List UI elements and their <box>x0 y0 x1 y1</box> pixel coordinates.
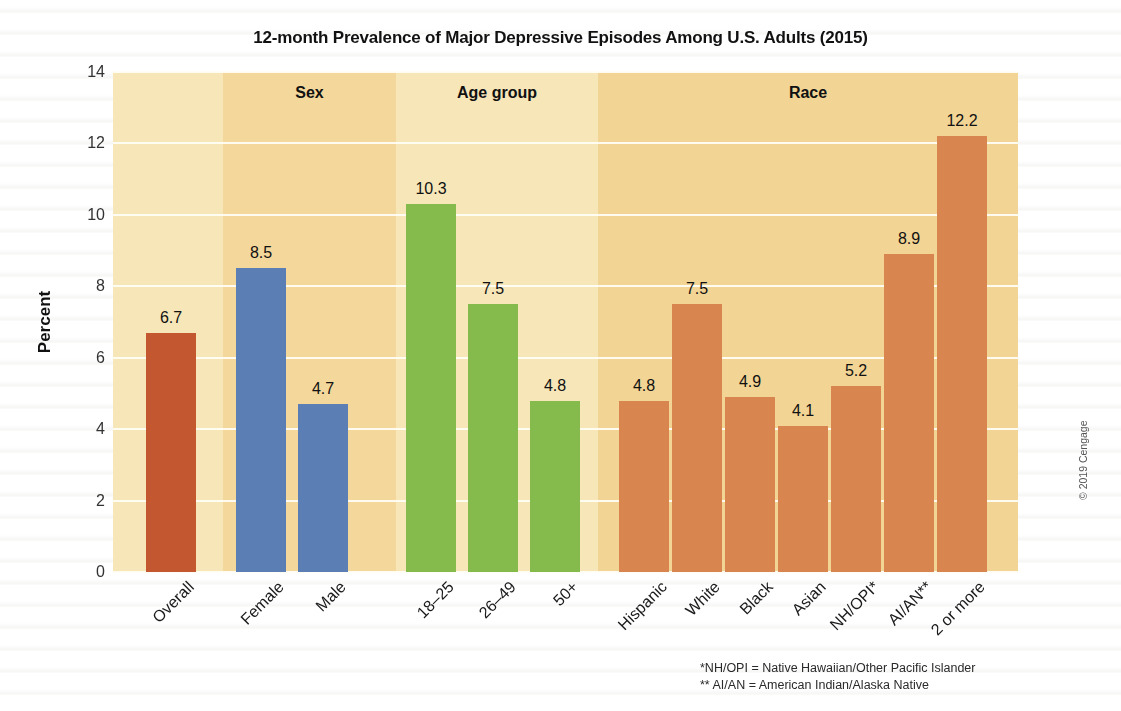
bar-white <box>672 304 722 572</box>
bar-value-label: 7.5 <box>453 280 533 298</box>
bar-female <box>236 268 286 572</box>
x-tick-label: NH/OPI* <box>827 578 883 634</box>
bar-18-25 <box>406 204 456 572</box>
gridline-10 <box>113 214 1018 216</box>
bar-26-49 <box>468 304 518 572</box>
gridline-14 <box>113 71 1018 73</box>
group-label-race: Race <box>598 84 1018 102</box>
bar-black <box>725 397 775 572</box>
chart-title: 12-month Prevalence of Major Depressive … <box>0 28 1121 48</box>
y-tick-4: 4 <box>65 420 105 438</box>
bar-ai-an <box>884 254 934 572</box>
y-axis-ticks: 02468101214 <box>63 72 105 572</box>
y-tick-2: 2 <box>65 492 105 510</box>
bar-overall <box>146 333 196 572</box>
y-tick-12: 12 <box>65 134 105 152</box>
y-axis-title: Percent <box>35 291 55 353</box>
bar-male <box>298 404 348 572</box>
x-tick-label: AI/AN** <box>885 578 936 629</box>
bar-nh-opi <box>831 386 881 572</box>
group-label-sex: Sex <box>223 84 396 102</box>
x-tick-label: Asian <box>789 578 830 619</box>
x-tick-label: Female <box>237 578 287 628</box>
x-tick-label: Overall <box>149 578 198 627</box>
x-tick-label: Hispanic <box>615 578 671 634</box>
bar-value-label: 4.8 <box>515 377 595 395</box>
y-tick-0: 0 <box>65 563 105 581</box>
y-tick-8: 8 <box>65 277 105 295</box>
x-tick-label: 50+ <box>550 578 582 610</box>
footnotes: *NH/OPI = Native Hawaiian/Other Pacific … <box>700 660 975 694</box>
plot-wrap: SexAge groupRace6.78.54.710.37.54.84.87.… <box>113 72 1018 572</box>
bar-value-label: 7.5 <box>657 280 737 298</box>
bar-value-label: 4.7 <box>283 380 363 398</box>
bar-2-or-more <box>937 136 987 572</box>
plot-area: SexAge groupRace6.78.54.710.37.54.84.87.… <box>113 72 1018 572</box>
bar-value-label: 6.7 <box>131 309 211 327</box>
y-tick-14: 14 <box>65 63 105 81</box>
bar-value-label: 8.5 <box>221 244 301 262</box>
bar-hispanic <box>619 401 669 572</box>
bar-asian <box>778 426 828 572</box>
gridline-12 <box>113 142 1018 144</box>
copyright-credit: © 2019 Cengage <box>1077 420 1089 500</box>
bar-value-label: 12.2 <box>922 112 1002 130</box>
group-label-age: Age group <box>396 84 598 102</box>
x-tick-label: 26–49 <box>476 578 520 622</box>
y-tick-10: 10 <box>65 206 105 224</box>
x-tick-label: White <box>682 578 724 620</box>
x-tick-label: 18–25 <box>414 578 458 622</box>
y-axis-title-wrap: Percent <box>0 72 40 572</box>
footnote-aian: ** AI/AN = American Indian/Alaska Native <box>700 677 975 694</box>
bar-value-label: 4.9 <box>710 373 790 391</box>
footnote-nhopi: *NH/OPI = Native Hawaiian/Other Pacific … <box>700 660 975 677</box>
bar-50 <box>530 401 580 572</box>
y-tick-6: 6 <box>65 349 105 367</box>
x-tick-label: Male <box>312 578 349 615</box>
bar-value-label: 10.3 <box>391 180 471 198</box>
x-tick-label: Black <box>736 578 776 618</box>
x-tick-label: 2 or more <box>928 578 989 639</box>
